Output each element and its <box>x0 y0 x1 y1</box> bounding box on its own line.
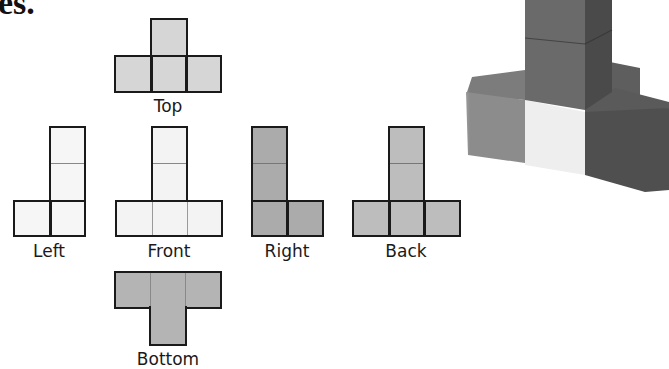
bottom-view-divider <box>150 273 151 307</box>
right-cube-front <box>585 108 669 192</box>
bottom-view-upper-row <box>114 271 222 309</box>
bottom-view-stem <box>149 306 187 346</box>
top-view-divider <box>150 55 153 93</box>
front-view-divider <box>153 163 186 164</box>
back-view-column <box>388 126 425 202</box>
cube-stack-photo <box>440 0 669 200</box>
back-view-divider <box>390 163 423 164</box>
right-view-column <box>251 126 288 202</box>
left-view-divider <box>49 200 52 237</box>
back-view-base <box>352 200 461 237</box>
right-view-divider <box>286 200 289 237</box>
front-view-column <box>151 126 188 202</box>
tower-side <box>585 0 612 110</box>
bottom-view-divider <box>185 273 186 307</box>
bottom-view-label: Bottom <box>113 351 223 368</box>
back-view-divider <box>388 200 391 237</box>
right-view-divider <box>253 163 286 164</box>
top-view-divider <box>185 55 188 93</box>
front-view-divider <box>152 202 153 235</box>
heading-fragment: es. <box>0 0 35 20</box>
top-view-label: Top <box>113 98 223 115</box>
left-view-column <box>49 126 86 202</box>
back-view-label: Back <box>351 243 461 260</box>
left-view-label: Left <box>0 243 104 260</box>
tower-front <box>525 0 585 110</box>
right-view-label: Right <box>232 243 342 260</box>
front-view-base <box>115 200 223 237</box>
front-view-label: Front <box>114 243 224 260</box>
center-cube-front <box>525 100 585 175</box>
front-view-divider <box>187 202 188 235</box>
back-view-divider <box>423 200 426 237</box>
left-view-divider <box>51 163 84 164</box>
top-view-lower-row <box>114 55 222 93</box>
left-cube-front <box>466 92 525 163</box>
top-view-upper-cell <box>150 18 188 57</box>
